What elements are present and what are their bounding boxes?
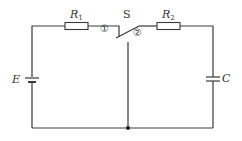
resistor-r1 (65, 23, 88, 30)
switch-label: S (123, 9, 131, 20)
wire-right-top (180, 26, 213, 77)
wire-left-top (32, 26, 65, 77)
switch-terminal1-label: ① (100, 24, 109, 34)
resistor-r2 (157, 23, 180, 30)
battery-label: E (12, 74, 20, 85)
r2-label: R2 (162, 9, 175, 22)
capacitor-label: C (222, 73, 230, 84)
r1-subscript: 1 (78, 14, 82, 22)
r2-subscript: 2 (170, 14, 174, 22)
circuit-diagram (0, 0, 242, 141)
r1-label: R1 (70, 9, 83, 22)
switch-terminal2-label: ② (133, 28, 142, 38)
junction-dot (126, 126, 130, 130)
